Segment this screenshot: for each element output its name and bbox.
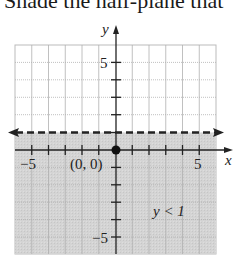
tick-label-x-neg5: −5 bbox=[20, 156, 36, 172]
tick-label-y-neg5: −5 bbox=[92, 230, 108, 246]
region-label: y < 1 bbox=[151, 203, 185, 219]
coordinate-plane: y x 5 −5 5 −5 (0, 0) y < 1 bbox=[0, 0, 243, 263]
tick-label-x-5: 5 bbox=[194, 156, 202, 172]
y-axis-label: y bbox=[100, 21, 109, 37]
test-point-label: (0, 0) bbox=[70, 156, 103, 173]
tick-label-y-5: 5 bbox=[100, 55, 108, 71]
y-axis-arrow-icon bbox=[113, 25, 119, 34]
x-axis-label: x bbox=[224, 152, 232, 168]
test-point bbox=[112, 146, 121, 155]
